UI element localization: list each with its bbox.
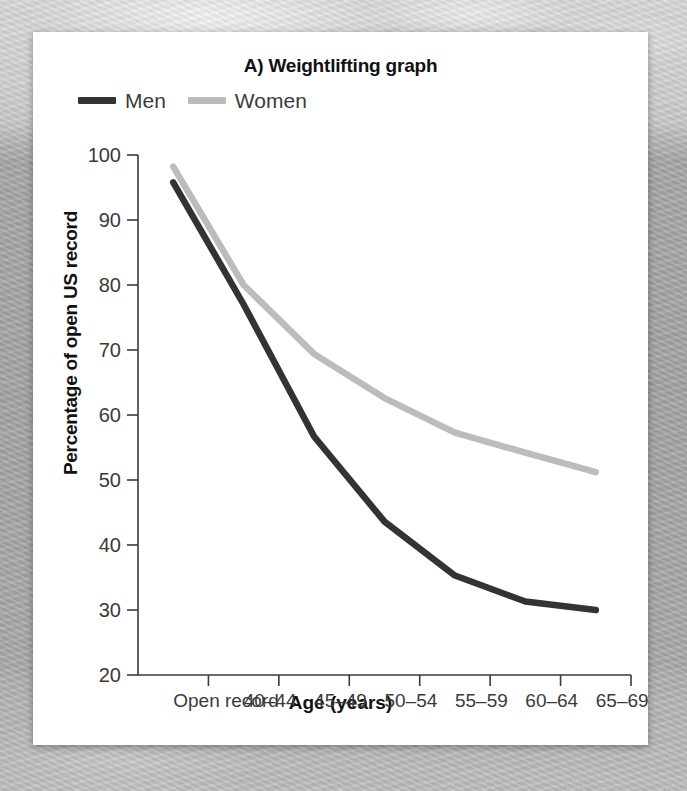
series-line-women <box>173 167 596 473</box>
x-tick-marks <box>208 675 631 686</box>
y-tick-label: 60 <box>69 405 121 425</box>
y-tick-label: 100 <box>69 145 121 165</box>
y-tick-label: 20 <box>69 665 121 685</box>
y-tick-label: 80 <box>69 275 121 295</box>
y-tick-label: 50 <box>69 470 121 490</box>
y-tick-label: 70 <box>69 340 121 360</box>
plot-area: Percentage of open US record Age (years)… <box>33 32 648 745</box>
data-series-group <box>173 167 596 610</box>
y-tick-marks <box>127 155 138 675</box>
chart-svg <box>33 32 648 745</box>
chart-card: A) Weightlifting graph Men Women Percent… <box>33 32 648 745</box>
y-tick-label: 30 <box>69 600 121 620</box>
y-tick-label: 40 <box>69 535 121 555</box>
y-tick-label: 90 <box>69 210 121 230</box>
screenshot-root: A) Weightlifting graph Men Women Percent… <box>0 0 687 791</box>
